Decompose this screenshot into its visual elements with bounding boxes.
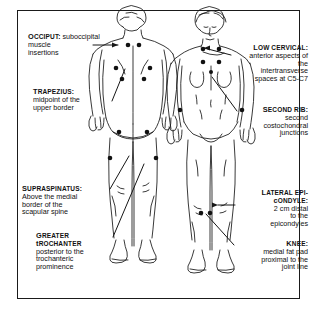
callout-occiput-line-0: suboccipital xyxy=(62,32,99,41)
callout-lateral-epicondyle: LATERAL EPI- cONDYLE: 2 cm distal to the… xyxy=(236,189,308,228)
callout-trapezius: TRAPEZIUS: midpoint of the upper border xyxy=(33,88,113,111)
callout-supraspinatus-line-2: scapular spine xyxy=(22,207,68,216)
callout-knee: KNEE: medial fat pad proximal to the joi… xyxy=(230,240,308,271)
callout-greater-trochanter-line-2: prominence xyxy=(36,262,73,271)
callout-occiput: OCCIPUT: suboccipital muscle insertions xyxy=(28,33,120,56)
callout-trapezius-line-1: upper border xyxy=(33,103,74,112)
callout-low-cervical-line-3: spaces at C5-C7 xyxy=(255,74,308,83)
callout-second-rib-line-2: junctions xyxy=(280,128,308,137)
callout-supraspinatus: SUPRASPINATUS: Above the medial border o… xyxy=(22,185,114,216)
callout-low-cervical: LOW CERVICAL: anterior aspects of the in… xyxy=(232,44,308,83)
callout-knee-line-2: joint line xyxy=(282,262,308,271)
callout-lateral-epicondyle-line-2: epicondyles xyxy=(270,219,308,228)
callout-occiput-line-2: insertions xyxy=(28,48,59,57)
callout-second-rib: SECOND RIB: second costochondral junctio… xyxy=(236,106,308,137)
callout-greater-trochanter-term-line-0: GREATER xyxy=(36,232,69,239)
callout-greater-trochanter: GREATER tROCHANTER posterior to the troc… xyxy=(36,232,120,271)
callout-lateral-epicondyle-term-line-0: LATERAL EPI- xyxy=(261,189,308,196)
